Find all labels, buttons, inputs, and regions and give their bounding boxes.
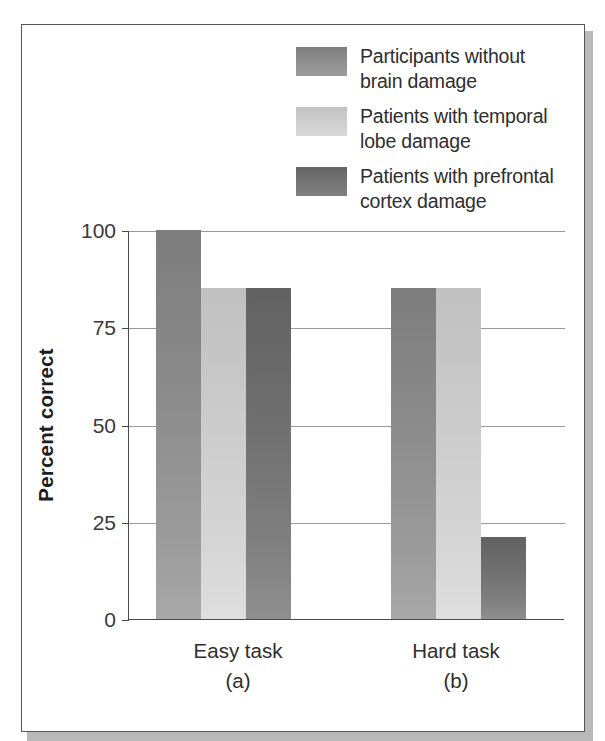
legend-label-temporal: Patients with temporal lobe damage — [360, 104, 547, 154]
y-tick-label-50: 50 — [93, 414, 116, 438]
x-group-label-hard-task: Hard task (b) — [348, 636, 564, 696]
bar-easy-task-temporal — [201, 288, 246, 619]
x-group-label-easy-task-name: Easy task — [194, 639, 283, 662]
y-axis-title: Percent correct — [34, 348, 58, 501]
legend-label-temporal-line2: lobe damage — [360, 130, 471, 152]
y-tick-mark-25 — [122, 523, 129, 524]
legend-label-control-line2: brain damage — [360, 70, 477, 92]
legend-item-temporal: Patients with temporal lobe damage — [296, 104, 566, 154]
chart-legend: Participants without brain damage Patien… — [296, 44, 566, 224]
bar-easy-task-prefrontal — [246, 288, 291, 619]
bar-easy-task-control — [156, 230, 201, 619]
legend-label-control: Participants without brain damage — [360, 44, 525, 94]
y-tick-label-0: 0 — [104, 608, 116, 632]
x-group-label-easy-task-sub: (a) — [128, 666, 348, 696]
legend-label-prefrontal-line2: cortex damage — [360, 190, 486, 212]
y-tick-mark-0 — [122, 620, 129, 621]
y-tick-mark-50 — [122, 426, 129, 427]
plot-area: 0255075100 — [128, 231, 564, 620]
bar-hard-task-control — [391, 288, 436, 619]
y-tick-mark-75 — [122, 328, 129, 329]
legend-label-prefrontal: Patients with prefrontal cortex damage — [360, 164, 554, 214]
legend-label-control-line1: Participants without — [360, 45, 525, 67]
x-group-label-hard-task-name: Hard task — [412, 639, 500, 662]
y-tick-label-100: 100 — [81, 219, 116, 243]
y-tick-label-75: 75 — [93, 316, 116, 340]
legend-item-control: Participants without brain damage — [296, 44, 566, 94]
y-tick-mark-100 — [122, 231, 129, 232]
y-tick-label-25: 25 — [93, 511, 116, 535]
legend-swatch-prefrontal — [296, 167, 347, 196]
legend-item-prefrontal: Patients with prefrontal cortex damage — [296, 164, 566, 214]
legend-label-prefrontal-line1: Patients with prefrontal — [360, 165, 554, 187]
x-group-label-hard-task-sub: (b) — [348, 666, 564, 696]
x-group-label-easy-task: Easy task (a) — [128, 636, 348, 696]
legend-swatch-control — [296, 47, 347, 76]
legend-label-temporal-line1: Patients with temporal — [360, 105, 547, 127]
bar-hard-task-temporal — [436, 288, 481, 619]
bar-hard-task-prefrontal — [481, 537, 526, 619]
legend-swatch-temporal — [296, 107, 347, 136]
